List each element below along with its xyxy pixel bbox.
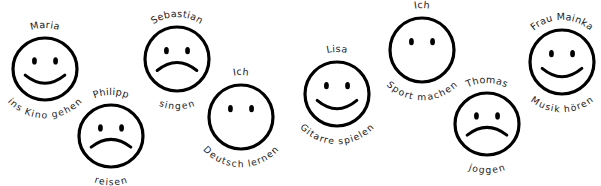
face-outline-maria [13, 38, 77, 100]
face-outline-sebastian [145, 27, 209, 91]
face-group-philipp: Philippreisen [79, 86, 143, 186]
face-outline-thomas [455, 93, 519, 155]
eye-left-ich-sport [409, 38, 414, 45]
eye-right-thomas [495, 112, 500, 119]
worksheet-canvas: Mariains Kino gehenPhilippreisenSebastia… [0, 0, 601, 186]
face-group-sebastian: Sebastiansingen [145, 8, 209, 111]
eye-right-frau-mainka [570, 50, 575, 57]
eye-right-sebastian [185, 47, 190, 54]
person-name-ich-sport: Ich [413, 0, 430, 11]
eye-right-philipp [119, 124, 124, 131]
eye-left-maria [32, 57, 37, 64]
activity-label-sebastian: singen [158, 97, 196, 111]
face-group-frau-mainka: Frau MainkaMusik hören [528, 11, 596, 114]
face-outline-ich-sport [390, 18, 454, 82]
face-group-ich-deutsch: IchDeutsch lernen [201, 66, 280, 169]
person-name-maria: Maria [29, 19, 61, 32]
eye-left-frau-mainka [549, 50, 554, 57]
face-outline-lisa [305, 62, 369, 126]
eye-right-ich-sport [430, 38, 435, 45]
face-group-maria: Mariains Kino gehen [6, 19, 84, 120]
person-name-thomas: Thomas [463, 74, 510, 90]
eye-left-sebastian [164, 47, 169, 54]
face-group-ich-sport: IchSport machen [385, 0, 459, 102]
person-name-ich-deutsch: Ich [232, 66, 249, 78]
eye-left-philipp [98, 124, 103, 131]
eye-left-thomas [474, 112, 479, 119]
eye-right-lisa [345, 82, 350, 89]
activity-label-frau-mainka: Musik hören [529, 94, 595, 115]
face-outline-ich-deutsch [209, 85, 273, 149]
eye-right-maria [53, 57, 58, 64]
face-outline-frau-mainka [530, 30, 594, 94]
eye-right-ich-deutsch [249, 105, 254, 112]
face-group-thomas: Thomasjoggen [455, 74, 519, 175]
eye-left-lisa [324, 82, 329, 89]
person-name-lisa: Lisa [325, 43, 348, 55]
face-group-lisa: LisaGitarre spielen [298, 43, 376, 146]
person-name-sebastian: Sebastian [149, 8, 206, 26]
eye-left-ich-deutsch [228, 105, 233, 112]
person-name-philipp: Philipp [91, 86, 130, 100]
face-outline-philipp [79, 105, 143, 167]
activity-label-thomas: joggen [467, 161, 507, 175]
activity-label-philipp: reisen [94, 174, 129, 186]
faces-diagram: Mariains Kino gehenPhilippreisenSebastia… [0, 0, 601, 186]
